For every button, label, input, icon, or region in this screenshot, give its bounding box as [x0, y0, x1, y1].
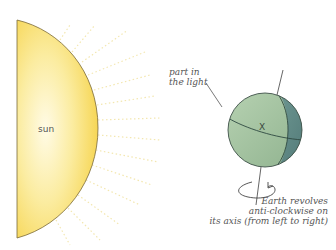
caption-line2: anti-clockwise on: [188, 206, 328, 216]
sun: [17, 20, 98, 238]
point-x-label: X: [259, 122, 265, 132]
caption-line1: Earth revolves: [188, 196, 328, 206]
rotation-caption: Earth revolves anti-clockwise on its axi…: [188, 196, 328, 226]
sun-label: sun: [38, 124, 54, 134]
part-in-light-label: part in the light: [169, 67, 219, 87]
earth: [225, 90, 310, 172]
earth-axis-top: [277, 70, 283, 95]
caption-line3: its axis (from left to right): [188, 216, 328, 226]
light-label-line1: part in: [169, 67, 219, 77]
light-label-line2: the light: [169, 77, 219, 87]
